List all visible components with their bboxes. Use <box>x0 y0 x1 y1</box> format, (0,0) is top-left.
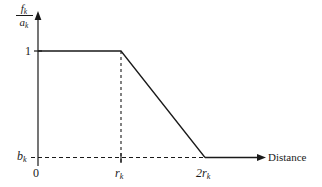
x-tick-label-2rk-symbol: 2r <box>196 166 207 180</box>
x-tick-label-rk-symbol: r <box>115 166 120 180</box>
x-tick-label-rk-subscript: k <box>120 172 124 181</box>
x-tick-label-2rk: 2rk <box>196 167 210 179</box>
x-tick-label-rk: rk <box>115 167 123 179</box>
y-axis-label-denominator: ak <box>11 16 37 28</box>
y-axis-label-numerator-subscript: k <box>24 7 27 16</box>
figure-container: fk ak 1 bk 0 rk 2rk Distance <box>0 0 322 187</box>
y-tick-label-one-text: 1 <box>25 44 31 58</box>
y-axis-label-numerator: fk <box>11 3 37 15</box>
y-tick-label-one: 1 <box>25 45 31 57</box>
y-axis-label-denominator-subscript: k <box>25 21 28 30</box>
x-tick-label-zero-text: 0 <box>33 166 39 180</box>
x-axis-label: Distance <box>268 152 306 163</box>
y-tick-label-bk: bk <box>17 150 27 162</box>
y-axis-label: fk ak <box>11 3 37 28</box>
y-tick-label-bk-subscript: k <box>23 155 27 164</box>
x-tick-label-zero: 0 <box>33 167 39 179</box>
x-tick-label-2rk-subscript: k <box>207 172 211 181</box>
